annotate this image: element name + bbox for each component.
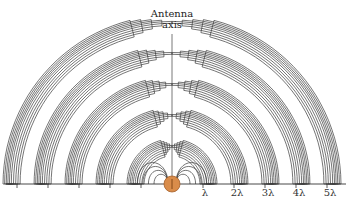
tick-label-1: λ bbox=[202, 187, 208, 198]
field-line-diagram bbox=[0, 0, 348, 204]
antenna-dipole bbox=[164, 176, 180, 192]
antenna-axis-label: Antenna axis bbox=[142, 8, 202, 30]
tick-label-5: 5λ bbox=[324, 187, 337, 198]
antenna-label-line2: axis bbox=[142, 19, 202, 30]
tick-label-2: 2λ bbox=[231, 187, 244, 198]
tick-label-4: 4λ bbox=[293, 187, 306, 198]
antenna-label-line1: Antenna bbox=[142, 8, 202, 19]
tick-label-3: 3λ bbox=[262, 187, 275, 198]
